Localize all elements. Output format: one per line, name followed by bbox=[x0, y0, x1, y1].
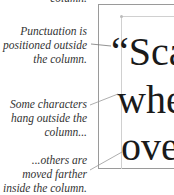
leader-inside bbox=[90, 152, 122, 170]
leader-lines bbox=[0, 0, 174, 195]
leader-hang bbox=[90, 94, 118, 105]
leader-punctuation bbox=[91, 44, 111, 46]
